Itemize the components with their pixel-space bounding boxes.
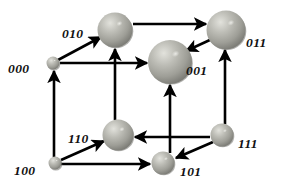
node-sphere [103,120,134,151]
node-111[interactable] [211,124,235,148]
node-010[interactable] [98,13,134,49]
node-sphere [98,13,133,48]
diagram-canvas: 000010011001100110101111 [0,0,283,187]
node-label-110: 110 [68,132,89,146]
node-sphere [152,152,175,175]
edge-111-to-101 [176,142,213,158]
node-sphere [47,57,60,70]
node-label-101: 101 [180,165,201,179]
node-label-111: 111 [238,137,258,151]
node-100[interactable] [49,157,63,171]
node-label-100: 100 [14,164,35,178]
node-101[interactable] [152,152,176,176]
node-label-010: 010 [62,27,83,41]
node-110[interactable] [103,120,135,152]
node-sphere [211,124,234,147]
node-011[interactable] [207,11,247,51]
node-label-001: 001 [186,64,207,78]
node-sphere [49,157,62,170]
node-sphere [207,11,246,50]
node-label-011: 011 [246,36,267,50]
hypercube-graphic [0,0,283,187]
node-label-000: 000 [8,62,29,76]
edge-011-to-001 [186,39,212,51]
